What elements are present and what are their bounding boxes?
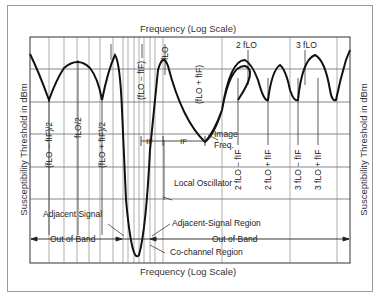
label-if-right: IF <box>180 137 187 146</box>
label-adjacent-signal: Adjacent Signal <box>43 209 102 219</box>
label-out-of-band-right: Out of Band <box>212 234 258 244</box>
susceptibility-diagram: (fLO − fIF)/2 fLO/2 (fLO + fIF)/2 (fLO −… <box>0 0 380 297</box>
label-flo-plus-fif-half: (fLO + fIF)/2 <box>97 122 107 168</box>
label-2flo-plus-fif: 2 fLO + fIF <box>263 150 273 190</box>
label-flo-half: fLO/2 <box>73 117 83 138</box>
label-adjacent-signal-region: Adjacent-Signal Region <box>172 218 261 228</box>
label-image-freq: Freq. <box>214 140 234 150</box>
label-flo-minus-fif-half: (fLO − fIF)/2 <box>44 122 54 168</box>
label-2flo: 2 fLO <box>236 40 257 50</box>
label-out-of-band-left: Out of Band <box>50 234 96 244</box>
label-flo-plus-fif: (fLO + fIF) <box>194 65 204 104</box>
label-if-left: IF <box>146 137 153 146</box>
label-flo-minus-fif: (fLO − fIF) <box>136 61 146 100</box>
label-image: Image <box>214 129 238 139</box>
label-3flo: 3 fLO <box>296 40 317 50</box>
label-3flo-minus-fif: 3 fLO − fIF <box>293 150 303 190</box>
label-2flo-minus-fif: 2 fLO − fIF <box>233 150 243 190</box>
label-local-oscillator: Local Oscillator <box>174 178 232 188</box>
label-flo: fLO <box>160 46 170 60</box>
annotations: 2 fLO 3 fLO IF IF Image Freq. Local Osci… <box>43 40 317 257</box>
label-3flo-plus-fif: 3 fLO + fIF <box>313 150 323 190</box>
label-co-channel-region: Co-channel Region <box>170 247 243 257</box>
